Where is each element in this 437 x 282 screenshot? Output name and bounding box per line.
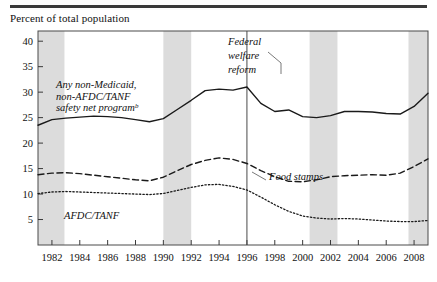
federal-welfare-reform-label: welfare bbox=[228, 50, 259, 61]
x-tick-label: 1984 bbox=[69, 252, 91, 263]
safety-net-label: Any non-Medicaid, bbox=[55, 79, 136, 90]
safety-net-label: safety net programb bbox=[56, 102, 139, 113]
y-tick-label: 5 bbox=[28, 214, 33, 225]
x-tick-label: 2002 bbox=[320, 252, 341, 263]
safety-net-label: non-AFDC/TANF bbox=[56, 91, 131, 102]
y-tick-label: 40 bbox=[23, 36, 34, 47]
leader-line-welfare-reform bbox=[268, 52, 281, 74]
x-tick-label: 1990 bbox=[153, 252, 174, 263]
y-tick-label: 30 bbox=[23, 87, 34, 98]
y-tick-label: 15 bbox=[23, 163, 34, 174]
y-tick-label: 35 bbox=[23, 61, 34, 72]
chart-plot: 510152025303540 198219841986198819901992… bbox=[0, 0, 437, 282]
y-tick-label: 25 bbox=[23, 112, 34, 123]
x-tick-label: 1992 bbox=[181, 252, 202, 263]
recession-1981-1982 bbox=[38, 31, 64, 245]
x-tick-label: 1996 bbox=[236, 252, 257, 263]
x-tick-label: 1994 bbox=[209, 252, 231, 263]
x-tick-label: 1986 bbox=[97, 252, 118, 263]
y-tick-label: 20 bbox=[23, 138, 34, 149]
federal-welfare-reform-label: reform bbox=[228, 64, 257, 75]
x-axis-ticks: 1982198419861988199019921994199619982000… bbox=[41, 240, 424, 263]
afdc-tanf-label: AFDC/TANF bbox=[63, 210, 120, 221]
x-tick-label: 1988 bbox=[125, 252, 146, 263]
x-tick-label: 2004 bbox=[348, 252, 370, 263]
x-tick-label: 2006 bbox=[376, 252, 397, 263]
figure-container: Percent of total population 510152025303… bbox=[0, 0, 437, 282]
y-tick-label: 10 bbox=[23, 189, 34, 200]
recession-2007-2009 bbox=[409, 31, 429, 245]
x-tick-label: 1998 bbox=[264, 252, 285, 263]
recession-1990-1991 bbox=[163, 31, 191, 245]
x-tick-label: 2008 bbox=[404, 252, 425, 263]
food-stamps-label: Food stamps bbox=[268, 171, 323, 182]
leader-line-food-stamps bbox=[252, 172, 266, 180]
x-tick-label: 1982 bbox=[41, 252, 62, 263]
federal-welfare-reform-label: Federal bbox=[227, 36, 261, 47]
x-tick-label: 2000 bbox=[292, 252, 313, 263]
series-line bbox=[38, 158, 428, 182]
annotation-leader-lines bbox=[252, 52, 281, 180]
recession-2001 bbox=[310, 31, 338, 245]
